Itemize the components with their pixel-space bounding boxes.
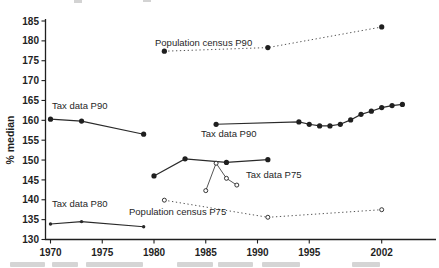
series-line-5 — [206, 163, 237, 190]
y-tick-label: 150 — [22, 155, 39, 166]
x-tick-label: 1990 — [246, 247, 269, 258]
caption-word-fragment — [10, 262, 45, 267]
caption-word-fragment — [218, 262, 253, 267]
y-tick-label: 130 — [22, 234, 39, 245]
y-tick-label: 165 — [22, 95, 39, 106]
caption-word-fragment — [352, 262, 380, 267]
caption-word-fragment — [262, 262, 300, 267]
data-point-filled — [265, 45, 270, 50]
y-tick-label: 180 — [22, 35, 39, 46]
data-point-filled — [214, 122, 219, 127]
x-tick-label: 1980 — [143, 247, 166, 258]
y-tick-label: 170 — [22, 75, 39, 86]
data-point-filled — [327, 123, 332, 128]
y-axis-title: % median — [4, 115, 16, 164]
cropped-content-above — [143, 0, 151, 2]
x-tick-label: 2002 — [371, 247, 394, 258]
series-annotation: Tax data P75 — [246, 169, 301, 180]
x-tick-label: 1970 — [39, 247, 62, 258]
y-tick-label: 155 — [22, 135, 39, 146]
data-point-open — [162, 198, 166, 202]
series-annotation: Population census P90 — [155, 37, 252, 48]
data-point-filled — [79, 119, 84, 124]
caption-word-fragment — [52, 262, 78, 267]
x-tick-label: 1985 — [195, 247, 218, 258]
series-annotation: Population census P75 — [129, 206, 226, 217]
data-point-filled — [265, 157, 270, 162]
series-line-1 — [51, 119, 144, 134]
series-annotation: Tax data P90 — [52, 100, 107, 111]
data-point-open — [224, 176, 228, 180]
data-point-filled — [141, 132, 146, 137]
data-point-filled — [379, 105, 384, 110]
series-annotation: Tax data P90 — [201, 128, 256, 139]
data-point-filled — [151, 173, 156, 178]
series-annotation: Tax data P80 — [52, 198, 107, 209]
data-point-dot — [80, 220, 83, 223]
y-tick-label: 140 — [22, 194, 39, 205]
x-tick-label: 1995 — [298, 247, 321, 258]
data-point-filled — [182, 156, 187, 161]
data-point-filled — [348, 117, 353, 122]
data-point-open — [204, 189, 208, 193]
data-point-filled — [317, 123, 322, 128]
data-point-open — [266, 215, 270, 219]
data-point-filled — [379, 24, 384, 29]
caption-word-fragment — [177, 262, 213, 267]
y-tick-label: 185 — [22, 16, 39, 27]
earnings-distribution-figure: 1301351401451501551601651701751801851970… — [0, 0, 439, 268]
data-point-filled — [296, 119, 301, 124]
data-point-filled — [389, 103, 394, 108]
data-point-filled — [224, 160, 229, 165]
data-point-filled — [369, 109, 374, 114]
data-point-filled — [162, 49, 167, 54]
data-point-open — [214, 161, 218, 165]
data-point-filled — [338, 122, 343, 127]
data-point-open — [235, 183, 239, 187]
data-point-dot — [49, 222, 52, 225]
series-line-7 — [51, 222, 144, 227]
y-tick-label: 135 — [22, 214, 39, 225]
chart-canvas: 1301351401451501551601651701751801851970… — [0, 0, 439, 268]
y-tick-label: 145 — [22, 175, 39, 186]
x-tick-label: 1975 — [91, 247, 114, 258]
data-point-filled — [307, 122, 312, 127]
y-tick-label: 175 — [22, 55, 39, 66]
data-point-filled — [48, 117, 53, 122]
data-point-filled — [400, 102, 405, 107]
data-point-filled — [358, 112, 363, 117]
cropped-content-above — [74, 0, 82, 3]
y-tick-label: 160 — [22, 115, 39, 126]
data-point-dot — [142, 225, 145, 228]
data-point-open — [380, 208, 384, 212]
caption-word-fragment — [86, 262, 143, 267]
